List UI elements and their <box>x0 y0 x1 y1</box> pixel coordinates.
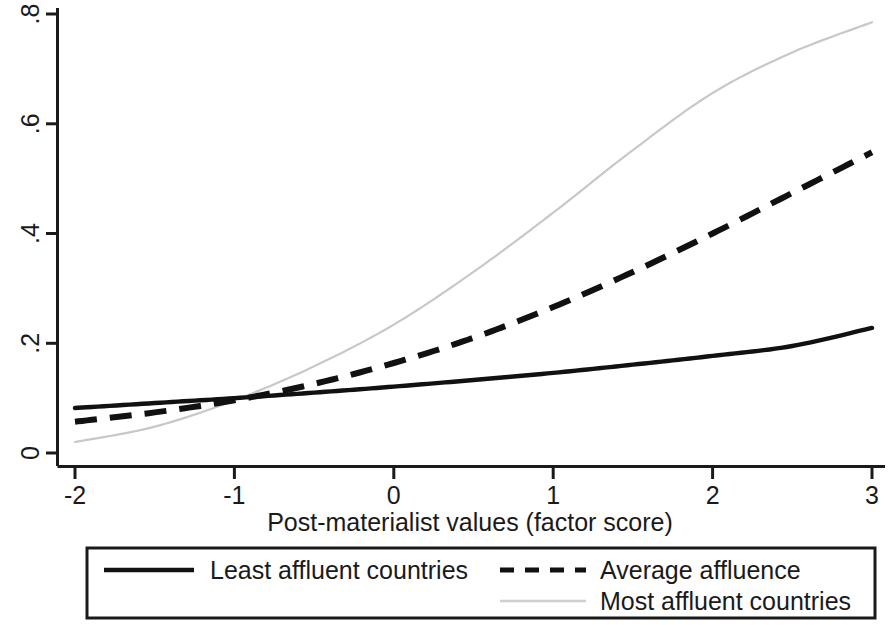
x-tick-label-3: 3 <box>865 481 879 509</box>
legend-label-average-affluence: Average affluence <box>600 556 801 584</box>
chart-svg: 0 .2 .4 .6 .8 -2 -1 0 1 2 3 Post-materia… <box>0 0 889 625</box>
y-tick-label-0_8: .8 <box>16 4 44 25</box>
legend-label-most-affluent-countries: Most affluent countries <box>600 587 851 615</box>
y-tick-label-0: 0 <box>16 446 44 460</box>
x-tick-label-1: 1 <box>546 481 560 509</box>
x-tick-label--2: -2 <box>64 481 86 509</box>
legend-label-least-affluent-countries: Least affluent countries <box>210 556 468 584</box>
chart-figure: 0 .2 .4 .6 .8 -2 -1 0 1 2 3 Post-materia… <box>0 0 889 625</box>
x-axis-title: Post-materialist values (factor score) <box>267 508 673 536</box>
y-tick-label-0_2: .2 <box>16 333 44 354</box>
y-tick-label-0_6: .6 <box>16 113 44 134</box>
x-tick-label--1: -1 <box>223 481 245 509</box>
y-tick-label-0_4: .4 <box>16 223 44 244</box>
x-tick-label-0: 0 <box>387 481 401 509</box>
x-tick-label-2: 2 <box>706 481 720 509</box>
chart-legend: Least affluent countries Average affluen… <box>87 548 875 618</box>
